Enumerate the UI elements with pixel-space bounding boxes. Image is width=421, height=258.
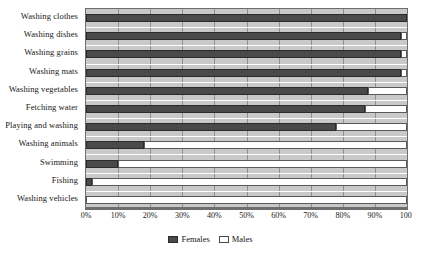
x-axis-tick-label: 30% [175, 211, 190, 220]
bar-segment-females [86, 32, 401, 40]
gridline-horizontal [86, 27, 407, 28]
bar-segment-males [401, 32, 407, 40]
x-axis-tick-label: 90% [368, 211, 383, 220]
bar-segment-females [86, 160, 118, 168]
legend-label-females: Females [181, 234, 209, 244]
category-label: Washing mats [0, 67, 78, 76]
category-label: Washing animals [0, 139, 78, 148]
category-label: Fetching water [0, 103, 78, 112]
gridline-horizontal [86, 173, 407, 174]
category-label: Washing vehicles [0, 194, 78, 203]
bar-row [86, 14, 407, 22]
bar-segment-males [401, 50, 407, 58]
category-label: Washing grains [0, 48, 78, 57]
bar-segment-males [86, 196, 407, 204]
legend-item-males: Males [219, 234, 253, 244]
bar-segment-females [86, 14, 407, 22]
x-axis-tick-label: 0% [81, 211, 92, 220]
x-axis-tick-label: 40% [207, 211, 222, 220]
bar-segment-females [86, 105, 365, 113]
x-axis-tick-label: 50% [239, 211, 254, 220]
legend-swatch-females-icon [168, 236, 178, 243]
bar-row [86, 87, 407, 95]
legend-swatch-males-icon [219, 236, 229, 243]
bar-segment-males [401, 69, 407, 77]
bar-row [86, 196, 407, 204]
gridline-horizontal [86, 82, 407, 83]
x-axis-tick-label: 10% [111, 211, 126, 220]
x-axis-tick-label: 80% [335, 211, 350, 220]
bar-segment-males [368, 87, 407, 95]
gridline-horizontal [86, 136, 407, 137]
bar-segment-females [86, 141, 144, 149]
stacked-bar-chart: Washing clothesWashing dishesWashing gra… [0, 0, 421, 258]
bar-row [86, 50, 407, 58]
category-label: Washing vegetables [0, 85, 78, 94]
bar-segment-females [86, 123, 336, 131]
bar-segment-males [92, 178, 407, 186]
bar-segment-males [118, 160, 407, 168]
gridline-horizontal [86, 100, 407, 101]
legend-label-males: Males [232, 234, 253, 244]
category-label: Fishing [0, 176, 78, 185]
x-axis-tick-label: 60% [271, 211, 286, 220]
plot-area [85, 8, 408, 208]
bar-row [86, 160, 407, 168]
bar-segment-males [336, 123, 407, 131]
bar-row [86, 141, 407, 149]
category-label: Swimming [0, 158, 78, 167]
legend-item-females: Females [168, 234, 209, 244]
bar-row [86, 32, 407, 40]
bar-segment-females [86, 50, 401, 58]
bar-row [86, 123, 407, 131]
category-label: Washing clothes [0, 12, 78, 21]
bar-row [86, 105, 407, 113]
gridline-horizontal [86, 45, 407, 46]
category-label: Washing dishes [0, 30, 78, 39]
gridline-horizontal [86, 118, 407, 119]
bar-segment-males [144, 141, 407, 149]
bar-segment-females [86, 69, 401, 77]
x-axis-line [85, 208, 408, 210]
gridline-horizontal [86, 154, 407, 155]
bar-segment-males [365, 105, 407, 113]
x-axis-tick-label: 20% [143, 211, 158, 220]
x-axis-tick-label: 70% [303, 211, 318, 220]
category-label: Playing and washing [0, 121, 78, 130]
gridline-horizontal [86, 191, 407, 192]
bar-row [86, 178, 407, 186]
bar-segment-females [86, 87, 368, 95]
x-axis-tick-label: 100 [400, 211, 412, 220]
bar-row [86, 69, 407, 77]
chart-legend: Females Males [0, 234, 421, 244]
category-axis-labels: Washing clothesWashing dishesWashing gra… [0, 8, 82, 208]
gridline-horizontal [86, 64, 407, 65]
